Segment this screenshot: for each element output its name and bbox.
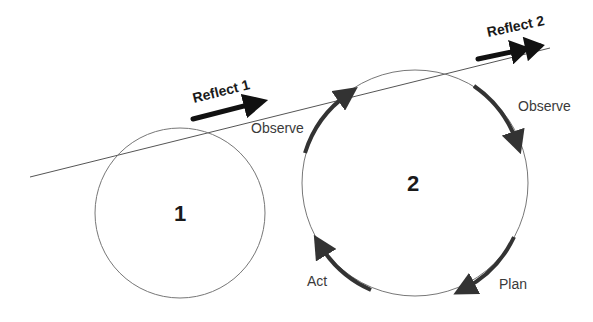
observe-right-arrow <box>474 86 517 143</box>
circle-2-number: 2 <box>407 171 419 196</box>
reflect-2-label: Reflect 2 <box>485 12 546 40</box>
observe-right-label: Observe <box>518 98 571 114</box>
tangent-line <box>30 48 550 177</box>
reflect-1-label: Reflect 1 <box>191 76 252 106</box>
plan-label: Plan <box>499 276 527 292</box>
cycle-diagram: Reflect 1 Reflect 2 Observe Observe Plan… <box>0 0 593 322</box>
reflect-1-arrow <box>193 103 256 119</box>
circle-1-number: 1 <box>174 201 186 226</box>
observe-left-label: Observe <box>251 120 304 136</box>
observe-left-arrow <box>305 94 348 153</box>
act-label: Act <box>307 273 327 289</box>
